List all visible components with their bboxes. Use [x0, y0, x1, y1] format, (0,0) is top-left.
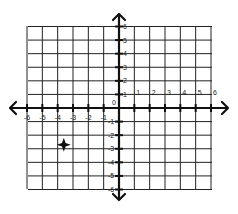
x-axis-label: -2: [85, 114, 91, 121]
x-axis-label: -1: [101, 114, 107, 121]
y-axis-label: 1: [123, 91, 127, 98]
x-axis-label: -6: [24, 114, 30, 121]
x-axis-label: 1: [136, 89, 140, 96]
x-axis-label: -5: [39, 114, 45, 121]
x-axis-label: 2: [152, 89, 156, 96]
y-axis-label: -3: [108, 145, 114, 152]
y-axis-label: -1: [108, 118, 114, 125]
x-axis-label: 5: [198, 89, 202, 96]
y-axis-label: -6: [108, 186, 114, 193]
x-axis-label: 6: [213, 89, 217, 96]
y-axis-label: -2: [108, 132, 114, 139]
x-axis-label: 3: [167, 89, 171, 96]
star-marker-icon[interactable]: [57, 138, 71, 152]
coordinate-plane: -6-5-4-3-2-1123456 654321-1-2-3-4-5-6 0: [0, 0, 238, 214]
y-axis-label: 4: [123, 50, 127, 57]
y-axis-label: 3: [123, 64, 127, 71]
y-axis-label: 5: [123, 37, 127, 44]
y-axis-label: -4: [108, 159, 114, 166]
origin-label: 0: [112, 99, 116, 106]
x-axis-label: -4: [55, 114, 61, 121]
y-axis-label: -5: [108, 172, 114, 179]
y-axis-label: 2: [123, 77, 127, 84]
x-axis-label: 4: [182, 89, 186, 96]
y-axis-label: 6: [123, 23, 127, 30]
x-axis-label: -3: [70, 114, 76, 121]
